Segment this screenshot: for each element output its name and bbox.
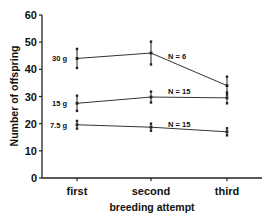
- data-point: [150, 96, 153, 99]
- series-annotation: N = 6: [168, 52, 186, 61]
- series-annotation: N = 15: [168, 87, 190, 96]
- error-cap: [226, 91, 228, 93]
- error-cap: [76, 67, 78, 69]
- error-cap: [226, 75, 228, 77]
- series-label: 15 g: [52, 99, 67, 108]
- series-7_5g: 7.5 gN = 15: [50, 120, 228, 137]
- error-cap: [76, 48, 78, 50]
- x-tick-label: second: [132, 185, 171, 197]
- error-cap: [150, 90, 152, 92]
- data-point: [226, 130, 229, 133]
- series-30g: 30 gN = 6: [52, 40, 228, 95]
- error-cap: [150, 122, 152, 124]
- series-15g: 15 gN = 15: [52, 87, 228, 112]
- x-tick-label: third: [215, 185, 239, 197]
- series-line: [77, 53, 227, 86]
- error-cap: [76, 127, 78, 129]
- series-label: 7.5 g: [50, 121, 68, 130]
- series-group: 30 gN = 615 gN = 157.5 gN = 15: [50, 40, 228, 136]
- y-tick-label: 20: [25, 118, 37, 130]
- y-tick-label: 30: [25, 91, 37, 103]
- error-cap: [226, 134, 228, 136]
- series-label: 30 g: [52, 54, 67, 63]
- error-cap: [226, 102, 228, 104]
- error-cap: [76, 94, 78, 96]
- y-tick-label: 10: [25, 145, 37, 157]
- error-cap: [150, 63, 152, 65]
- data-point: [150, 52, 153, 55]
- data-point: [226, 96, 229, 99]
- error-cap: [226, 127, 228, 129]
- error-cap: [76, 120, 78, 122]
- data-point: [226, 84, 229, 87]
- error-cap: [150, 40, 152, 42]
- chart: 0102030405060firstsecondthird 30 gN = 61…: [0, 0, 275, 224]
- error-cap: [150, 101, 152, 103]
- y-axis-title: Number of offspring: [8, 46, 20, 147]
- x-tick-label: first: [67, 185, 88, 197]
- y-tick-label: 0: [31, 172, 37, 184]
- data-point: [76, 123, 79, 126]
- series-annotation: N = 15: [168, 120, 190, 129]
- x-axis-title: breeding attempt: [109, 201, 195, 213]
- y-tick-label: 40: [25, 63, 37, 75]
- data-point: [150, 126, 153, 129]
- y-tick-label: 50: [25, 36, 37, 48]
- y-tick-label: 60: [25, 9, 37, 21]
- data-point: [76, 102, 79, 105]
- error-cap: [76, 110, 78, 112]
- error-cap: [150, 130, 152, 132]
- data-point: [76, 57, 79, 60]
